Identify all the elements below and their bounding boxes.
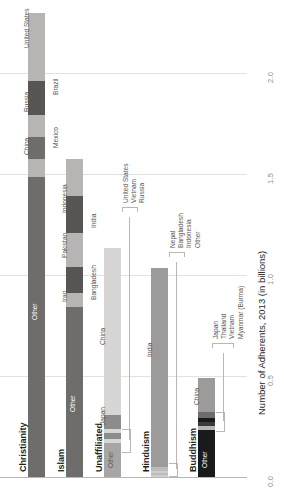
callout-item-bangladesh: Bangladesh bbox=[177, 213, 185, 248]
seglabel-islam-indonesia: Indonesia bbox=[61, 184, 68, 213]
category-label-hinduism: Hinduism bbox=[141, 431, 151, 472]
segment-islam-bangladesh[interactable] bbox=[66, 267, 83, 293]
callout-item-russia: Russia bbox=[138, 163, 146, 203]
callout-item-united-states: United States bbox=[122, 163, 130, 203]
value-axis-title: Number of Adherents, 2013 (in billions) bbox=[256, 251, 267, 415]
segment-islam-pakistan[interactable] bbox=[66, 233, 83, 267]
seglabel-christianity-china: China bbox=[23, 138, 30, 155]
segment-christianity-brazil[interactable] bbox=[28, 81, 45, 115]
segment-islam-indonesia[interactable] bbox=[66, 159, 83, 196]
callout-labels-hinduism: Nepal Bangladesh Indonesia Other bbox=[169, 213, 202, 248]
callout-item-vietnam: Vietnam bbox=[130, 163, 138, 203]
segment-unaffiliated-united-states[interactable] bbox=[104, 429, 121, 433]
callout-group-tick-left-buddhism bbox=[212, 343, 214, 348]
seglabel-unaffiliated-china: China bbox=[99, 328, 106, 345]
callout-group-tick-right-unaffiliated bbox=[137, 207, 139, 212]
seglabel-islam-pakistan: Pakistan bbox=[61, 233, 68, 258]
segment-hinduism-other[interactable] bbox=[151, 475, 168, 477]
callout-item-other: Other bbox=[194, 213, 202, 248]
callout-item-vietnam: Vietnam bbox=[228, 286, 236, 339]
segment-buddhism-japan[interactable] bbox=[198, 412, 215, 418]
segment-unaffiliated-japan[interactable] bbox=[104, 415, 121, 429]
callout-group-bracket-hinduism bbox=[169, 252, 185, 254]
bar-hinduism[interactable] bbox=[151, 268, 168, 477]
segment-buddhism-china[interactable] bbox=[198, 378, 215, 412]
segment-islam-india[interactable] bbox=[66, 196, 83, 233]
callout-labels-buddhism: Japan Thailand Vietnam Myanmar (Burma) bbox=[212, 286, 245, 339]
bar-islam[interactable] bbox=[66, 159, 83, 477]
seglabel-islam-other: Other bbox=[69, 396, 76, 413]
segment-buddhism-vietnam[interactable] bbox=[198, 422, 215, 426]
segment-christianity-other[interactable] bbox=[28, 177, 45, 477]
tick-label-0-0: 0.0 bbox=[266, 476, 275, 487]
seglabel-buddhism-other: Other bbox=[201, 452, 208, 469]
seglabel-buddhism-china: China bbox=[193, 388, 200, 405]
bar-unaffiliated[interactable] bbox=[104, 248, 121, 477]
segment-christianity-russia[interactable] bbox=[28, 115, 45, 137]
bar-christianity[interactable] bbox=[28, 13, 45, 477]
callout-item-japan: Japan bbox=[212, 286, 220, 339]
callout-item-myanmar: Myanmar (Burma) bbox=[237, 286, 245, 339]
callout-group-tick-left-hinduism bbox=[169, 252, 171, 257]
segment-hinduism-nepal[interactable] bbox=[151, 467, 168, 471]
segment-hinduism-indonesia[interactable] bbox=[151, 473, 168, 475]
segment-buddhism-myanmar[interactable] bbox=[198, 426, 215, 430]
seglabel-islam-india: India bbox=[90, 214, 97, 228]
seglabel-islam-iran: Iran bbox=[61, 291, 68, 302]
callout-group-bracket-unaffiliated bbox=[122, 207, 138, 209]
callout-group-tick-left-unaffiliated bbox=[122, 207, 124, 212]
callout-labels-unaffiliated: United States Vietnam Russia bbox=[122, 163, 147, 203]
callout-item-nepal: Nepal bbox=[169, 213, 177, 248]
callout-group-bracket-buddhism bbox=[212, 343, 234, 345]
chart-canvas: 0.0 0.5 1.0 1.5 2.0 Number of Adherents,… bbox=[0, 0, 284, 495]
seglabel-christianity-united-states: United States bbox=[23, 8, 30, 48]
seglabel-unaffiliated-japan: Japan bbox=[99, 407, 106, 425]
seglabel-christianity-mexico: Mexico bbox=[52, 127, 59, 148]
callout-group-tick-right-hinduism bbox=[184, 252, 186, 257]
segment-hinduism-india[interactable] bbox=[151, 268, 168, 467]
category-label-islam: Islam bbox=[56, 449, 66, 472]
seglabel-christianity-russia: Russia bbox=[23, 92, 30, 112]
axis-baseline bbox=[0, 477, 247, 478]
segment-christianity-china[interactable] bbox=[28, 159, 45, 177]
segment-unaffiliated-china[interactable] bbox=[104, 248, 121, 415]
tick-label-0-5: 0.5 bbox=[266, 375, 275, 386]
segment-buddhism-thailand[interactable] bbox=[198, 418, 215, 422]
callout-leader-buddhism bbox=[223, 353, 224, 421]
segment-islam-iran[interactable] bbox=[66, 293, 83, 307]
category-label-unaffiliated: Unaffiliated bbox=[94, 423, 104, 472]
seglabel-christianity-brazil: Brazil bbox=[52, 79, 59, 96]
segment-unaffiliated-russia[interactable] bbox=[104, 439, 121, 443]
seglabel-islam-bangladesh: Bangladesh bbox=[90, 265, 97, 300]
segment-christianity-united-states[interactable] bbox=[28, 13, 45, 81]
seglabel-hinduism-india: India bbox=[146, 343, 153, 357]
seglabel-unaffiliated-other: Other bbox=[107, 452, 114, 469]
seglabel-christianity-other: Other bbox=[31, 304, 38, 321]
segment-hinduism-bangladesh[interactable] bbox=[151, 471, 168, 473]
segment-christianity-mexico[interactable] bbox=[28, 137, 45, 159]
category-label-buddhism: Buddhism bbox=[188, 428, 198, 472]
segment-islam-other[interactable] bbox=[66, 307, 83, 477]
callout-leader-unaffiliated bbox=[129, 217, 130, 440]
category-label-christianity: Christianity bbox=[18, 422, 28, 472]
tick-label-1-0: 1.0 bbox=[266, 274, 275, 285]
segment-unaffiliated-vietnam[interactable] bbox=[104, 433, 121, 439]
callout-item-thailand: Thailand bbox=[220, 286, 228, 339]
tick-label-2-0: 2.0 bbox=[266, 72, 275, 83]
tick-label-1-5: 1.5 bbox=[266, 173, 275, 184]
callout-group-tick-right-buddhism bbox=[233, 343, 235, 348]
callout-item-indonesia: Indonesia bbox=[185, 213, 193, 248]
callout-leader-hinduism bbox=[176, 262, 177, 469]
